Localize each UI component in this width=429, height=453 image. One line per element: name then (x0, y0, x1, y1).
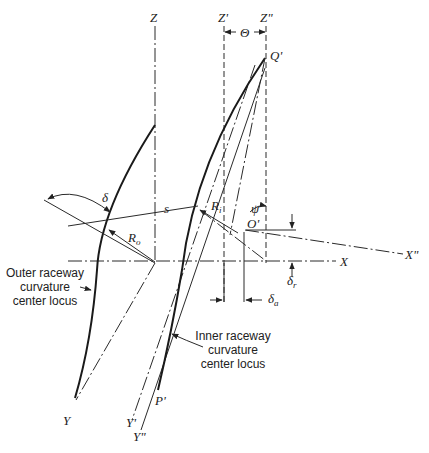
outer-caption-pointer (80, 287, 91, 290)
inner-caption-line-2: curvature (208, 343, 258, 357)
label-p-prime: P' (154, 393, 166, 408)
label-z-double-prime: Z" (260, 10, 273, 25)
label-z: Z (150, 10, 158, 25)
s-line (68, 206, 198, 226)
label-r-o: Ro (127, 230, 141, 247)
label-x-double-prime: X" (404, 247, 419, 262)
y-double-prime-axis (141, 68, 265, 430)
y-axis (76, 263, 155, 400)
label-y-prime: Y' (126, 415, 136, 430)
outer-caption-line-3: center locus (13, 294, 78, 308)
label-delta-r: δr (287, 273, 297, 290)
x-double-prime-axis (245, 230, 403, 254)
label-y: Y (63, 413, 72, 428)
label-q-prime: Q' (270, 48, 282, 63)
label-s: s (164, 201, 169, 216)
label-y-double-prime: Y" (133, 429, 146, 444)
label-o-prime: O' (247, 216, 259, 231)
label-z-prime: Z' (218, 10, 228, 25)
label-delta: δ (102, 190, 109, 205)
label-psi: ψ (251, 201, 260, 216)
outer-caption-line-1: Outer raceway (6, 266, 84, 280)
outer-caption-line-2: curvature (20, 280, 70, 294)
label-theta: Θ (240, 25, 250, 40)
bearing-raceway-diagram: Z Z' Z" Θ Q' δ s Ro Ri ψ O' X X" δr δa P… (0, 0, 429, 453)
inner-caption-line-3: center locus (201, 357, 266, 371)
inner-caption-line-1: Inner raceway (195, 329, 270, 343)
label-delta-a: δa (268, 291, 279, 308)
label-x: X (339, 254, 349, 269)
delta-arc (48, 194, 110, 212)
label-r-i: Ri (210, 198, 222, 215)
